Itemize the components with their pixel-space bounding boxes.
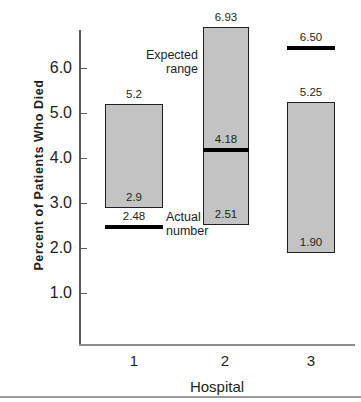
y-tick-mark-6 bbox=[81, 68, 87, 69]
actual-number-label-hospital-2: 4.18 bbox=[196, 134, 256, 146]
expected-upper-label-hospital-1: 5.2 bbox=[105, 89, 163, 101]
annotation-actual-number: Actual number bbox=[166, 210, 226, 239]
y-axis-line bbox=[79, 30, 81, 346]
expected-upper-label-hospital-2: 6.93 bbox=[196, 12, 256, 24]
actual-number-line-hospital-1 bbox=[105, 225, 163, 229]
expected-lower-label-hospital-3: 1.90 bbox=[281, 237, 341, 249]
expected-upper-label-hospital-3: 5.25 bbox=[281, 87, 341, 99]
actual-number-label-hospital-3: 6.50 bbox=[281, 32, 341, 44]
y-tick-mark-2 bbox=[81, 248, 87, 249]
actual-number-line-hospital-2 bbox=[203, 148, 249, 152]
actual-number-label-hospital-1: 2.48 bbox=[105, 211, 163, 223]
expected-lower-label-hospital-1: 2.9 bbox=[105, 192, 163, 204]
actual-number-line-hospital-3 bbox=[287, 46, 335, 50]
bottom-divider bbox=[0, 396, 361, 398]
y-tick-mark-3 bbox=[81, 203, 87, 204]
expected-range-bar-hospital-3 bbox=[287, 102, 335, 253]
expected-range-bar-hospital-2 bbox=[203, 27, 249, 225]
y-axis-title: Percent of Patients Who Died bbox=[32, 60, 46, 290]
x-axis-title: Hospital bbox=[79, 378, 355, 395]
x-tick-label-2: 2 bbox=[205, 352, 245, 369]
x-tick-label-3: 3 bbox=[291, 352, 331, 369]
x-tick-label-1: 1 bbox=[114, 352, 154, 369]
annotation-expected-range: Expected range bbox=[120, 48, 198, 77]
x-axis-line bbox=[79, 344, 355, 346]
y-tick-mark-5 bbox=[81, 113, 87, 114]
y-tick-mark-1 bbox=[81, 293, 87, 294]
chart-figure: 6.0 5.0 4.0 3.0 2.0 1.0 Percent of Patie… bbox=[0, 0, 361, 402]
y-tick-mark-4 bbox=[81, 158, 87, 159]
